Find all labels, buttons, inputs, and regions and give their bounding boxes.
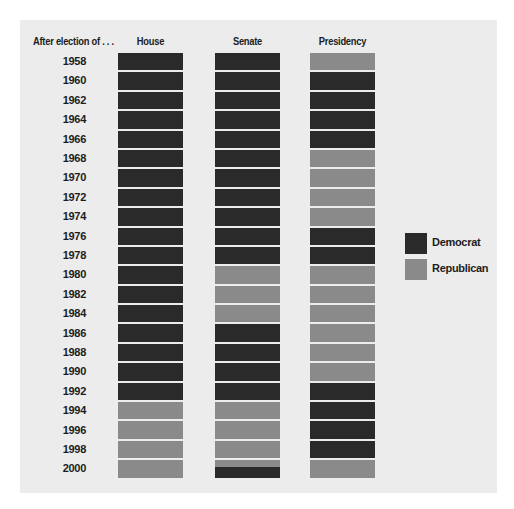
cell-senate-1976 (215, 228, 280, 245)
cell-senate-1978 (215, 247, 280, 264)
year-label: 1988 (30, 343, 86, 362)
cell-house-1972 (118, 189, 183, 206)
cell-house-1964 (118, 111, 183, 128)
democrat-swatch (405, 233, 427, 254)
column-header-house: House (123, 35, 178, 47)
year-label: 1998 (30, 440, 86, 459)
cell-house-1978 (118, 247, 183, 264)
cell-presidency-1982 (310, 286, 375, 303)
cell-senate-1984 (215, 305, 280, 322)
cell-senate-1988 (215, 344, 280, 361)
year-label: 1976 (30, 227, 86, 246)
cell-senate-1980 (215, 266, 280, 283)
cell-presidency-1966 (310, 131, 375, 148)
cell-senate-1996 (215, 421, 280, 438)
year-label: 1972 (30, 188, 86, 207)
year-label: 1992 (30, 382, 86, 401)
cell-senate-1960 (215, 72, 280, 89)
cell-presidency-1962 (310, 92, 375, 109)
year-label: 1960 (30, 71, 86, 90)
column-header-senate: Senate (220, 35, 275, 47)
year-label: 1980 (30, 265, 86, 284)
cell-presidency-1994 (310, 402, 375, 419)
cell-senate-2000 (215, 460, 280, 477)
cell-presidency-2000 (310, 460, 375, 477)
cell-house-1980 (118, 266, 183, 283)
cell-house-1988 (118, 344, 183, 361)
cell-house-2000 (118, 460, 183, 477)
cell-house-1974 (118, 208, 183, 225)
cell-presidency-1976 (310, 228, 375, 245)
cell-senate-1970 (215, 169, 280, 186)
cell-presidency-1986 (310, 324, 375, 341)
cell-senate-1974 (215, 208, 280, 225)
cell-presidency-1964 (310, 111, 375, 128)
cell-presidency-1968 (310, 150, 375, 167)
cell-house-1962 (118, 92, 183, 109)
cell-senate-1966 (215, 131, 280, 148)
year-label: 1974 (30, 207, 86, 226)
year-label: 1996 (30, 421, 86, 440)
cell-senate-1972 (215, 189, 280, 206)
cell-senate-1968 (215, 150, 280, 167)
cell-presidency-1996 (310, 421, 375, 438)
legend-democrat-label: Democrat (432, 236, 480, 248)
year-label: 1962 (30, 91, 86, 110)
cell-senate-1992 (215, 383, 280, 400)
year-label: 1968 (30, 149, 86, 168)
cell-house-1986 (118, 324, 183, 341)
cell-presidency-1960 (310, 72, 375, 89)
house-column (118, 53, 183, 480)
cell-presidency-1984 (310, 305, 375, 322)
cell-presidency-1958 (310, 53, 375, 70)
cell-house-1968 (118, 150, 183, 167)
cell-house-1984 (118, 305, 183, 322)
cell-presidency-1970 (310, 169, 375, 186)
cell-house-1994 (118, 402, 183, 419)
cell-senate-1962 (215, 92, 280, 109)
year-label: 1984 (30, 304, 86, 323)
cell-senate-1964 (215, 111, 280, 128)
cell-presidency-1980 (310, 266, 375, 283)
year-label: 1970 (30, 168, 86, 187)
legend-republican-label: Republican (432, 262, 488, 274)
year-label: 1966 (30, 130, 86, 149)
year-label: 1990 (30, 362, 86, 381)
republican-swatch (405, 259, 427, 280)
cell-house-1992 (118, 383, 183, 400)
year-label: 1986 (30, 324, 86, 343)
cell-senate-1982 (215, 286, 280, 303)
cell-house-1958 (118, 53, 183, 70)
cell-house-1998 (118, 441, 183, 458)
split-democrat-portion (215, 467, 280, 477)
cell-presidency-1988 (310, 344, 375, 361)
cell-senate-1994 (215, 402, 280, 419)
year-label: 1982 (30, 285, 86, 304)
cell-presidency-1990 (310, 363, 375, 380)
cell-presidency-1992 (310, 383, 375, 400)
cell-senate-1986 (215, 324, 280, 341)
year-label: 1978 (30, 246, 86, 265)
row-header: After election of . . . (33, 35, 114, 47)
column-header-presidency: Presidency (315, 35, 370, 47)
cell-presidency-1974 (310, 208, 375, 225)
year-label: 1994 (30, 401, 86, 420)
cell-senate-1958 (215, 53, 280, 70)
cell-house-1960 (118, 72, 183, 89)
cell-house-1970 (118, 169, 183, 186)
year-label: 1958 (30, 52, 86, 71)
cell-senate-1998 (215, 441, 280, 458)
cell-house-1976 (118, 228, 183, 245)
senate-column (215, 53, 280, 480)
cell-presidency-1978 (310, 247, 375, 264)
year-label: 1964 (30, 110, 86, 129)
cell-house-1996 (118, 421, 183, 438)
year-label: 2000 (30, 459, 86, 478)
cell-presidency-1998 (310, 441, 375, 458)
cell-house-1990 (118, 363, 183, 380)
cell-senate-1990 (215, 363, 280, 380)
cell-house-1966 (118, 131, 183, 148)
cell-presidency-1972 (310, 189, 375, 206)
presidency-column (310, 53, 375, 480)
cell-house-1982 (118, 286, 183, 303)
